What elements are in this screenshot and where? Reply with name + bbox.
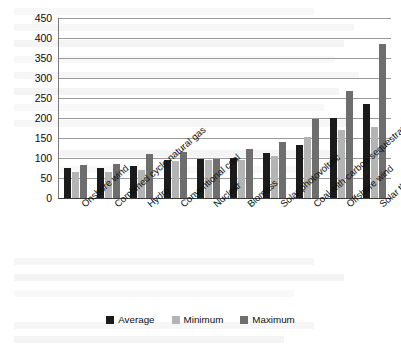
bar-minimum	[238, 160, 245, 198]
bar-group	[92, 18, 125, 198]
bar-minimum	[271, 156, 278, 198]
legend-label: Maximum	[252, 314, 294, 325]
bar-maximum	[246, 149, 253, 198]
bar-group	[291, 18, 324, 198]
y-tick-label: 450	[6, 13, 52, 23]
bar-group	[225, 18, 258, 198]
y-tick-label: 350	[6, 53, 52, 63]
x-tick-label: Offshore wind	[344, 201, 351, 209]
bar-minimum	[138, 170, 145, 198]
bar-minimum	[304, 137, 311, 198]
legend-label: Average	[118, 314, 154, 325]
chart-legend: AverageMinimumMaximum	[0, 314, 401, 325]
bar-group	[358, 18, 391, 198]
bar-minimum	[338, 130, 345, 198]
bar-maximum	[213, 159, 220, 198]
bar-group	[258, 18, 291, 198]
bar-maximum	[312, 119, 319, 198]
x-tick-label: Combined cycle natural gas	[112, 201, 119, 209]
y-tick-label: 250	[6, 93, 52, 103]
y-tick-label: 400	[6, 33, 52, 43]
legend-item-minimum: Minimum	[172, 314, 224, 325]
bar-group	[59, 18, 92, 198]
bar-maximum	[80, 165, 87, 198]
y-tick-label: 150	[6, 133, 52, 143]
bar-minimum	[371, 127, 378, 198]
plot-area	[58, 18, 391, 199]
y-axis: 050100150200250300350400450	[0, 18, 52, 198]
y-tick-label: 200	[6, 113, 52, 123]
y-tick-label: 50	[6, 173, 52, 183]
legend-item-maximum: Maximum	[240, 314, 294, 325]
bar-maximum	[146, 154, 153, 198]
x-tick-label: Hydro	[145, 201, 152, 209]
bar-maximum	[346, 91, 353, 198]
bar-group	[192, 18, 225, 198]
bar-maximum	[113, 164, 120, 198]
bar-average	[197, 159, 204, 198]
bar-minimum	[72, 172, 79, 198]
legend-swatch-icon	[240, 316, 248, 324]
x-tick-label: Onshore wind	[79, 201, 86, 209]
x-tick-label: Coal with carbon sequestration	[311, 201, 318, 209]
y-tick-label: 0	[6, 193, 52, 203]
x-tick-label: Solar photovoltaic	[278, 201, 285, 209]
y-tick-label: 100	[6, 153, 52, 163]
bar-group	[125, 18, 158, 198]
bar-average	[363, 104, 370, 198]
legend-label: Minimum	[184, 314, 224, 325]
bar-maximum	[379, 44, 386, 198]
legend-swatch-icon	[172, 316, 180, 324]
legend-swatch-icon	[106, 316, 114, 324]
bar-minimum	[105, 172, 112, 198]
bar-average	[296, 145, 303, 198]
bar-minimum	[205, 160, 212, 198]
bar-average	[263, 153, 270, 198]
bar-average	[64, 168, 71, 198]
bar-average	[330, 118, 337, 198]
legend-item-average: Average	[106, 314, 154, 325]
x-tick-label: Conventional coal	[178, 201, 185, 209]
bar-minimum	[172, 161, 179, 198]
x-tick-label: Solar thermal	[377, 201, 384, 209]
bar-group	[325, 18, 358, 198]
bar-group	[159, 18, 192, 198]
bar-average	[130, 166, 137, 198]
bar-average	[230, 158, 237, 198]
bar-average	[97, 168, 104, 198]
bar-average	[164, 160, 171, 198]
x-tick-label: Nuclear	[211, 201, 218, 209]
bar-maximum	[180, 152, 187, 198]
bar-maximum	[279, 142, 286, 198]
y-tick-label: 300	[6, 73, 52, 83]
x-tick-label: Biomass	[245, 201, 252, 209]
bar-chart-figure: 050100150200250300350400450 Onshore wind…	[0, 0, 401, 346]
